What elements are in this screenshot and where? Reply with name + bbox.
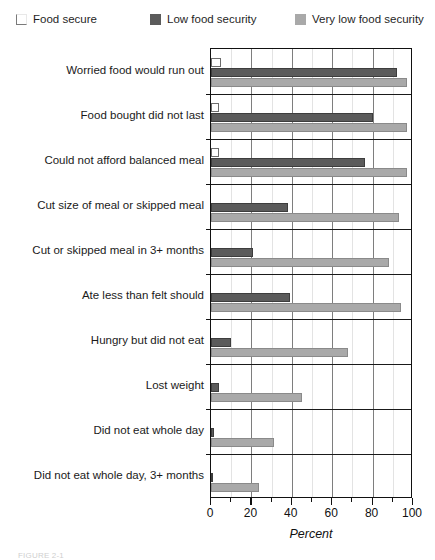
bar-food-secure [211, 58, 221, 67]
y-axis-tick [206, 364, 211, 365]
y-axis-tick [206, 319, 211, 320]
bar-very-low-food-security [211, 168, 407, 177]
legend-label: Very low food security [312, 13, 424, 25]
x-axis-major-tick [291, 498, 292, 505]
x-axis-tick-label: 0 [207, 506, 214, 520]
y-axis-tick [206, 139, 211, 140]
legend-item-low-food-security: Low food security [150, 13, 257, 25]
x-axis-major-tick [210, 498, 211, 505]
bar-chart: Worried food would run outFood bought di… [0, 40, 435, 510]
y-axis-tick [206, 454, 211, 455]
x-axis-major-tick [250, 498, 251, 505]
white-square-icon [16, 14, 27, 25]
plot-area [210, 48, 412, 498]
bar-very-low-food-security [211, 303, 401, 312]
bar-low-food-security [211, 203, 288, 212]
x-axis-title: Percent [210, 527, 412, 541]
bar-low-food-security [211, 293, 290, 302]
group-separator [211, 229, 411, 230]
bar-low-food-security [211, 338, 231, 347]
gridline-major [373, 49, 374, 497]
bar-low-food-security [211, 428, 214, 437]
category-label: Worried food would run out [2, 64, 210, 77]
bar-very-low-food-security [211, 348, 348, 357]
chart-legend: Food secure Low food security Very low f… [0, 10, 435, 32]
legend-item-food-secure: Food secure [16, 13, 97, 25]
bar-food-secure [211, 103, 219, 112]
category-label: Lost weight [2, 379, 210, 392]
x-axis-tick-label: 80 [365, 506, 378, 520]
x-axis-tick-label: 20 [244, 506, 257, 520]
bar-very-low-food-security [211, 438, 274, 447]
bar-low-food-security [211, 113, 373, 122]
group-separator [211, 454, 411, 455]
group-separator [211, 364, 411, 365]
bar-food-secure [211, 148, 219, 157]
category-axis-labels: Worried food would run outFood bought di… [0, 48, 210, 498]
x-axis-minor-tick [311, 498, 312, 502]
group-separator [211, 274, 411, 275]
legend-item-very-low-food-security: Very low food security [295, 13, 424, 25]
group-separator [211, 184, 411, 185]
y-axis-tick [206, 94, 211, 95]
x-axis-major-tick [412, 498, 413, 505]
x-axis-minor-tick [230, 498, 231, 502]
x-axis-minor-tick [271, 498, 272, 502]
category-label: Cut size of meal or skipped meal [2, 199, 210, 212]
group-separator [211, 139, 411, 140]
category-label: Could not afford balanced meal [2, 154, 210, 167]
legend-label: Food secure [33, 13, 97, 25]
y-axis-tick [206, 184, 211, 185]
bar-very-low-food-security [211, 258, 389, 267]
x-axis-major-tick [372, 498, 373, 505]
bar-low-food-security [211, 248, 253, 257]
x-axis-minor-tick [351, 498, 352, 502]
category-label: Did not eat whole day [2, 424, 210, 437]
category-label: Food bought did not last [2, 109, 210, 122]
category-label: Did not eat whole day, 3+ months [2, 469, 210, 482]
legend-label: Low food security [167, 13, 257, 25]
x-axis-minor-tick [392, 498, 393, 502]
bar-very-low-food-security [211, 213, 399, 222]
x-axis-tick-label: 100 [402, 506, 422, 520]
bar-low-food-security [211, 68, 397, 77]
y-axis-tick [206, 274, 211, 275]
dark-square-icon [150, 14, 161, 25]
bar-very-low-food-security [211, 393, 302, 402]
bar-very-low-food-security [211, 78, 407, 87]
x-axis-tick-label: 60 [325, 506, 338, 520]
group-separator [211, 94, 411, 95]
category-label: Cut or skipped meal in 3+ months [2, 244, 210, 257]
bar-low-food-security [211, 158, 365, 167]
bar-very-low-food-security [211, 123, 407, 132]
category-label: Hungry but did not eat [2, 334, 210, 347]
figure-caption: FIGURE 2-1 [18, 551, 64, 560]
group-separator [211, 319, 411, 320]
x-axis: 020406080100 [210, 498, 412, 528]
light-square-icon [295, 14, 306, 25]
y-axis-tick [206, 409, 211, 410]
group-separator [211, 409, 411, 410]
category-label: Ate less than felt should [2, 289, 210, 302]
bar-low-food-security [211, 473, 213, 482]
bar-low-food-security [211, 383, 219, 392]
x-axis-tick-label: 40 [284, 506, 297, 520]
y-axis-tick [206, 229, 211, 230]
gridline-minor [393, 49, 394, 497]
x-axis-major-tick [331, 498, 332, 505]
bar-very-low-food-security [211, 483, 259, 492]
